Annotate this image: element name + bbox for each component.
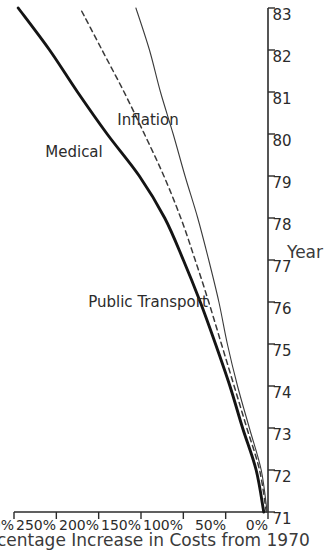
x-tick-label: 74 <box>272 386 291 401</box>
series-line-medical <box>80 8 266 512</box>
series-line-public-transport <box>18 8 264 512</box>
x-tick-label: 81 <box>272 92 291 107</box>
y-axis-title: Percentage Increase in Costs from 1970 <box>0 532 310 549</box>
x-tick-label: 71 <box>272 512 291 527</box>
x-tick-label: 75 <box>272 344 291 359</box>
x-axis-title: Year <box>287 244 323 261</box>
x-tick-label: 79 <box>272 176 291 191</box>
series-label-medical: Medical <box>45 145 102 160</box>
axis-lines <box>14 8 268 512</box>
chart-page: 71727374757677787980818283 0%50%100%150%… <box>0 0 326 552</box>
x-tick-label: 82 <box>272 50 291 65</box>
x-tick-label: 78 <box>272 218 291 233</box>
x-tick-label: 80 <box>272 134 291 149</box>
x-tick-label: 76 <box>272 302 291 317</box>
rotated-figure: 71727374757677787980818283 0%50%100%150%… <box>0 0 326 552</box>
x-tick-label: 72 <box>272 470 291 485</box>
series-label-public-transport: Public Transport <box>88 295 208 310</box>
series-line-inflation <box>136 8 267 512</box>
series-label-inflation: Inflation <box>117 113 178 128</box>
x-tick-label: 83 <box>272 8 291 23</box>
x-tick-label: 77 <box>272 260 291 275</box>
x-tick-label: 73 <box>272 428 291 443</box>
